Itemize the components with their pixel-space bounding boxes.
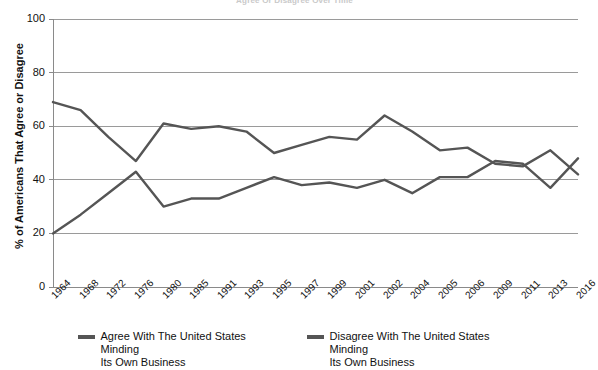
legend-swatch-icon xyxy=(307,335,324,339)
chart-legend: Agree With The United States MindingIts … xyxy=(0,330,589,369)
legend-label: Disagree With The United States MindingI… xyxy=(330,330,512,369)
series-lines xyxy=(53,102,578,233)
legend-entry-2[interactable]: Disagree With The United States MindingI… xyxy=(307,330,512,369)
series-line-1 xyxy=(53,102,578,174)
y-tick-label: 80 xyxy=(15,67,45,78)
series-line-2 xyxy=(53,158,578,233)
y-tick-label: 0 xyxy=(15,281,45,292)
y-tick-label: 20 xyxy=(15,227,45,238)
y-tick-label: 40 xyxy=(15,174,45,185)
legend-swatch-icon xyxy=(78,335,95,339)
legend-entry-1[interactable]: Agree With The United States MindingIts … xyxy=(78,330,283,369)
y-tick-label: 60 xyxy=(15,120,45,131)
axis-lines xyxy=(49,19,53,287)
legend-label: Agree With The United States MindingIts … xyxy=(101,330,283,369)
y-tick-label: 100 xyxy=(15,13,45,24)
gridlines xyxy=(53,19,578,287)
